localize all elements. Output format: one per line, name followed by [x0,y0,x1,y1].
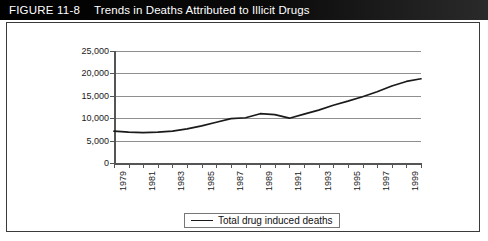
x-axis-tick-mark [172,164,173,168]
x-axis-tick-mark [392,164,393,168]
x-axis-tick-mark [216,164,217,168]
y-axis-tick-label: 25,000 [49,46,109,56]
legend-label: Total drug induced deaths [218,215,333,226]
y-axis-tick-label: 10,000 [49,113,109,123]
x-axis-tick-mark [260,164,261,168]
x-axis-tick-label: 1999 [410,171,420,191]
x-axis-tick-mark [406,164,407,168]
x-axis-tick-mark [187,164,188,168]
figure-number-label: FIGURE 11-8 [0,4,80,16]
x-axis-tick-mark [143,164,144,168]
x-axis-tick-mark [377,164,378,168]
y-axis-tick-label: 15,000 [49,91,109,101]
legend-line-swatch [191,220,213,221]
x-axis-tick-mark [246,164,247,168]
x-axis-tick-label: 1983 [176,171,186,191]
x-axis-tick-mark [231,164,232,168]
y-axis-tick-label: 5,000 [49,136,109,146]
x-axis-tick-label: 1981 [147,171,157,191]
x-axis-tick-label: 1991 [293,171,303,191]
x-axis-tick-mark [363,164,364,168]
x-axis-tick-mark [319,164,320,168]
x-axis-tick-mark [275,164,276,168]
figure-title-bar: FIGURE 11-8 Trends in Deaths Attributed … [0,0,488,20]
x-axis-tick-mark [289,164,290,168]
x-axis-tick-mark [114,164,115,168]
x-axis-tick-label: 1979 [118,171,128,191]
x-axis-tick-mark [202,164,203,168]
x-axis-tick-label: 1987 [235,171,245,191]
x-axis-tick-mark [158,164,159,168]
chart-area: 25,00020,00015,00010,0005,0000 197919811… [7,23,481,233]
x-axis-tick-mark [348,164,349,168]
figure-title-text: Trends in Deaths Attributed to Illicit D… [80,4,310,16]
x-axis-line [114,163,422,165]
x-axis-tick-mark [333,164,334,168]
x-axis-tick-label: 1995 [352,171,362,191]
x-axis-tick-label: 1997 [381,171,391,191]
y-axis-labels: 25,00020,00015,00010,0005,0000 [45,51,109,163]
figure-card: 25,00020,00015,00010,0005,0000 197919811… [6,22,480,232]
data-series-line [114,51,421,163]
figure-page: FIGURE 11-8 Trends in Deaths Attributed … [0,0,488,241]
y-axis-tick-label: 20,000 [49,68,109,78]
x-axis-tick-label: 1985 [206,171,216,191]
x-axis-tick-label: 1989 [264,171,274,191]
x-axis-tick-mark [421,164,422,168]
chart-legend: Total drug induced deaths [184,213,340,228]
x-axis-tick-label: 1993 [323,171,333,191]
y-axis-tick-label: 0 [49,158,109,168]
x-axis-tick-mark [129,164,130,168]
x-axis-tick-mark [304,164,305,168]
